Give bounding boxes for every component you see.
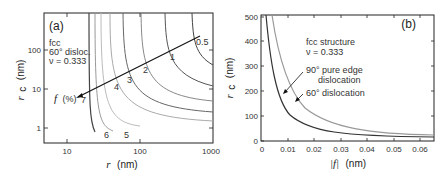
panel-a: 0.5 1 2 3 4 5 6 7 f (%) (a) fcc 60° disl… xyxy=(10,13,220,171)
xtick-0.05: 0.05 xyxy=(386,145,402,154)
xtick-10: 10 xyxy=(63,147,72,156)
level-label-5: 5 xyxy=(124,130,129,140)
ytick-0: 0 xyxy=(254,137,259,146)
level-label-0.5: 0.5 xyxy=(196,37,209,47)
panel-b-note-structure: fcc structure xyxy=(306,37,355,47)
panel-a-contours xyxy=(89,13,213,132)
xtick-1000: 1000 xyxy=(202,147,220,156)
panel-b-label: (b) xyxy=(401,17,416,31)
ytick-500: 500 xyxy=(245,13,259,22)
ytick-1: 1 xyxy=(37,124,42,133)
figure: 0.5 1 2 3 4 5 6 7 f (%) (a) fcc 60° disl… xyxy=(0,0,446,180)
xtick-0.02: 0.02 xyxy=(306,145,322,154)
level-label-1: 1 xyxy=(170,52,175,62)
level-label-4: 4 xyxy=(114,82,119,92)
panel-a-label: (a) xyxy=(49,19,64,33)
level-label-3: 3 xyxy=(127,75,132,85)
level-label-2: 2 xyxy=(143,65,148,75)
sixty-label: 60° dislocation xyxy=(306,88,365,98)
xtick-0.06: 0.06 xyxy=(412,145,428,154)
xtick-0: 0 xyxy=(260,145,265,154)
ytick-100: 100 xyxy=(245,112,259,121)
panel-a-note-poisson: ν = 0.333 xyxy=(49,56,86,66)
contour-7 xyxy=(89,13,95,132)
contour-4 xyxy=(110,13,213,121)
ytick-300: 300 xyxy=(245,62,259,71)
f-direction-arrow xyxy=(78,36,200,97)
edge-label-line2: dislocation xyxy=(318,75,361,85)
panel-b-ylabel: r c (nm) xyxy=(219,58,238,99)
level-label-6: 6 xyxy=(104,130,109,140)
arrow-label: f (%) xyxy=(54,88,77,105)
panel-b: (b) fcc structure ν = 0.333 90° pure edg… xyxy=(219,13,434,170)
xtick-0.01: 0.01 xyxy=(280,145,296,154)
edge-label-line1: 90° pure edge xyxy=(306,65,363,75)
panel-a-ylabel: r c (nm) xyxy=(10,60,29,101)
ytick-10: 10 xyxy=(32,85,41,94)
level-label-7: 7 xyxy=(81,95,86,105)
xtick-0.04: 0.04 xyxy=(359,145,375,154)
ytick-100: 100 xyxy=(28,46,42,55)
xtick-100: 100 xyxy=(133,147,147,156)
edge-pointer-line xyxy=(285,72,303,92)
ytick-400: 400 xyxy=(245,37,259,46)
panel-a-xlabel: r (nm) xyxy=(106,154,137,171)
panel-b-xlabel: |f| (nm) xyxy=(330,153,366,170)
panel-b-note-poisson: ν = 0.333 xyxy=(306,47,343,57)
contour-3 xyxy=(123,13,213,112)
ytick-200: 200 xyxy=(245,87,259,96)
